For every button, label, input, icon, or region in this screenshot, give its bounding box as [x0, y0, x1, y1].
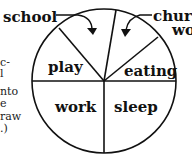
callout-church-line2: wo: [171, 21, 192, 39]
callout-school: school: [3, 8, 57, 26]
segment-label-sleep: sleep: [114, 98, 158, 116]
segment-label-play: play: [48, 58, 84, 76]
divider-school-church: [104, 10, 116, 81]
pie-diagram: play eating work sleep school chur wo: [0, 0, 192, 157]
segment-label-eating: eating: [124, 62, 178, 80]
segment-label-work: work: [54, 98, 97, 116]
church-arrow-head-icon: [121, 29, 131, 37]
school-arrow-head-icon: [87, 28, 97, 35]
